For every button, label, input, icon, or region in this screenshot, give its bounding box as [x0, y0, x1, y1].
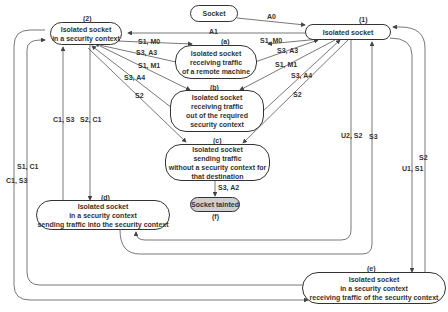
edge-label-c1s3-d: C1, S3 — [53, 116, 74, 123]
node-c-sending-without-context: Isolated socket sending traffic without … — [165, 144, 270, 181]
node-a-receiving-remote: Isolated socket receiving traffic of a r… — [175, 45, 257, 79]
edge-label-s3-right: S3 — [369, 133, 378, 140]
node-e-label: Isolated socket in a security context re… — [310, 275, 439, 302]
edge-label-a1: A1 — [209, 28, 218, 35]
edge-label-s1m0-left: S1, M0 — [138, 38, 160, 45]
node-e-receiving-of-context: Isolated socket in a security context re… — [302, 272, 446, 304]
edge-label-s2c1-d: S2, C1 — [80, 116, 101, 123]
edge-label-u1s1: U1, S1 — [402, 165, 423, 172]
edge-label-s3a3-right: S3, A3 — [277, 47, 298, 54]
edge-label-s1m0-right: S1, M0 — [260, 37, 282, 44]
edge-label-s3a4-right: S3, A4 — [291, 72, 312, 79]
node-c-id: (c) — [213, 137, 222, 144]
edge-label-s2-outer: S2 — [419, 154, 428, 161]
node-socket: Socket — [190, 5, 238, 22]
node-f-socket-tainted: Socket tainted — [190, 197, 240, 212]
node-a-id: (a) — [221, 38, 230, 45]
node-f-label: Socket tainted — [191, 200, 239, 209]
edge-label-s2-right: S2 — [293, 91, 302, 98]
node-1-isolated-socket: Isolated socket — [305, 24, 391, 40]
node-1-id: (1) — [359, 16, 368, 23]
node-2-security-context: Isolated socket in a security context — [50, 22, 122, 45]
edge-label-s1c1: S1, C1 — [17, 163, 38, 170]
edge-label-s3a4-left: S3, A4 — [124, 74, 145, 81]
node-e-id: (e) — [367, 265, 376, 272]
node-a-label: Isolated socket receiving traffic of a r… — [182, 49, 250, 76]
node-f-id: (f) — [212, 213, 219, 220]
edge-label-u2s2: U2, S2 — [341, 132, 362, 139]
node-2-id: (2) — [83, 15, 92, 22]
node-d-sending-into-context: Isolated socket in a security context se… — [36, 200, 170, 230]
edge-label-s3a3-left: S3, A3 — [136, 49, 157, 56]
node-c-label: Isolated socket sending traffic without … — [169, 145, 267, 181]
edge-label-s1m1-right: S1, M1 — [275, 61, 297, 68]
edge-label-s3a2: S3, A2 — [218, 184, 239, 191]
edge-label-s1m1-left: S1, M1 — [138, 62, 160, 69]
node-b-label: Isolated socket receiving traffic out of… — [186, 93, 248, 129]
node-d-label: Isolated socket in a security context se… — [37, 202, 168, 229]
edge-label-s2-left: S2 — [135, 92, 144, 99]
edge-label-c1s3-outer: C1, S3 — [6, 177, 27, 184]
node-1-label: Isolated socket — [323, 28, 374, 37]
node-2-label: Isolated socket in a security context — [52, 25, 120, 43]
node-socket-label: Socket — [203, 9, 226, 18]
node-b-receiving-out-of-context: Isolated socket receiving traffic out of… — [170, 90, 264, 132]
edge-label-a0: A0 — [267, 13, 276, 20]
